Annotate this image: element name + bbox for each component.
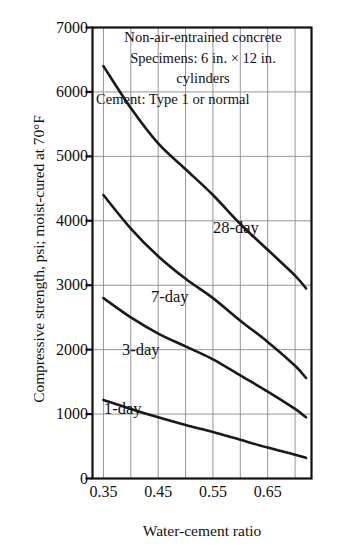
curve-label-3-day: 3-day [122,341,160,358]
y-axis-tick-label: 6000 [26,84,88,100]
x-axis-tick-label: 0.45 [128,484,188,500]
x-axis-tick-label: 0.35 [73,484,133,500]
annotation-line: Non-air-entrained concrete [96,27,310,48]
chart-figure: Compressive strength, psi; moist-cured a… [0,0,346,557]
x-axis-title: Water-cement ratio [92,522,312,540]
y-axis-tick-label: 1000 [26,406,88,422]
x-axis-tick-label: 0.55 [183,484,243,500]
y-axis-tick-labels: 01000200030004000500060007000 [20,0,88,557]
y-axis-tick-label: 5000 [26,148,88,164]
x-axis-tick-label: 0.65 [238,484,298,500]
curve-label-7-day: 7-day [151,288,189,305]
y-axis-tick-label: 3000 [26,277,88,293]
annotation-line: cylinders [96,68,310,89]
curve-label-1-day: 1-day [104,400,142,417]
annotation-line: Specimens: 6 in. × 12 in. [96,48,310,69]
annotation-line: Cement: Type 1 or normal [96,89,310,110]
y-axis-tick-label: 7000 [26,20,88,36]
y-axis-tick-label: 2000 [26,342,88,358]
chart-annotation-block: Non-air-entrained concreteSpecimens: 6 i… [96,27,310,109]
y-axis-tick-label: 4000 [26,213,88,229]
curve-label-28-day: 28-day [213,219,259,236]
